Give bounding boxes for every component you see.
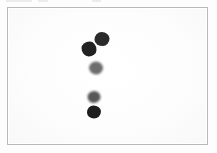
- specimen-plate: [7, 7, 208, 145]
- plate-surface: [9, 9, 206, 143]
- spot-3: [89, 62, 103, 75]
- spot-1: [95, 32, 110, 46]
- spot-4: [88, 91, 101, 103]
- edge-artifact-c: [92, 0, 101, 2]
- edge-artifact-a: [6, 0, 32, 2]
- edge-artifact-b: [38, 0, 48, 2]
- spot-2: [82, 42, 97, 57]
- scan-canvas: [0, 0, 217, 153]
